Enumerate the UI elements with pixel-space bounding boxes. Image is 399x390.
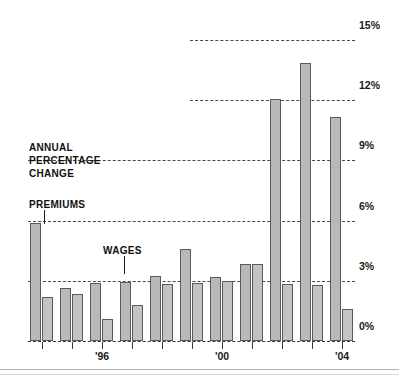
- x-tick-2003: [312, 342, 313, 349]
- bar-wages-1994: [42, 297, 53, 341]
- x-tick-2001: [252, 342, 253, 349]
- bar-premiums-1995: [60, 288, 71, 341]
- bar-wages-2001: [252, 264, 263, 341]
- x-axis-label-00: '00: [202, 350, 242, 362]
- x-tick-1997: [132, 342, 133, 349]
- x-tick-1999: [192, 342, 193, 349]
- bar-premiums-2001: [240, 264, 251, 341]
- y-axis-label-12: 12%: [359, 79, 395, 91]
- bar-wages-2000: [222, 281, 233, 341]
- premiums-callout-label: PREMIUMS: [29, 198, 85, 212]
- x-tick-1998: [162, 342, 163, 349]
- bar-wages-2003: [312, 285, 323, 341]
- bar-wages-2002: [282, 284, 293, 341]
- x-tick-2002: [282, 342, 283, 349]
- y-axis-label-9: 9%: [359, 139, 395, 151]
- bar-premiums-1994: [30, 223, 41, 341]
- bar-premiums-1999: [180, 249, 191, 341]
- wages-callout-label: WAGES: [103, 244, 142, 258]
- bar-wages-1998: [162, 284, 173, 341]
- axis-title-line-2: PERCENTAGE: [29, 154, 101, 168]
- bar-premiums-2002: [270, 99, 281, 341]
- y-axis-label-3: 3%: [359, 260, 395, 272]
- gridline-15: [190, 40, 355, 41]
- bar-premiums-2003: [300, 63, 311, 341]
- bar-wages-1999: [192, 283, 203, 341]
- bar-wages-1995: [72, 294, 83, 341]
- bar-chart: 15% 12% 9% 6% 3% 0% '96 '00 '04 ANNUAL P…: [0, 0, 399, 390]
- x-tick-2004: [342, 342, 343, 349]
- x-tick-1995: [72, 342, 73, 349]
- bar-premiums-1996: [90, 283, 101, 341]
- x-tick-2000: [222, 342, 223, 349]
- bar-wages-1997: [132, 305, 143, 341]
- bar-premiums-1997: [120, 282, 131, 341]
- footer-divider-bottom: [0, 374, 399, 375]
- bar-premiums-2000: [210, 277, 221, 341]
- x-tick-1996: [102, 342, 103, 349]
- plot-area: 15% 12% 9% 6% 3% 0% '96 '00 '04 ANNUAL P…: [0, 0, 399, 390]
- premiums-callout-leader: [44, 210, 45, 224]
- footer-divider-top: [0, 369, 399, 370]
- x-axis-label-96: '96: [82, 350, 122, 362]
- wages-callout-leader: [124, 256, 125, 274]
- axis-title-line-3: CHANGE: [29, 167, 74, 181]
- bar-wages-2004: [342, 309, 353, 341]
- x-axis-label-04: '04: [322, 350, 362, 362]
- axis-title-line-1: ANNUAL: [29, 141, 73, 155]
- bar-wages-1996: [102, 319, 113, 341]
- y-axis-label-15: 15%: [359, 19, 395, 31]
- bar-premiums-1998: [150, 276, 161, 341]
- y-axis-label-0: 0%: [359, 320, 395, 332]
- x-tick-1994: [42, 342, 43, 349]
- y-axis-label-6: 6%: [359, 200, 395, 212]
- bar-premiums-2004: [330, 117, 341, 341]
